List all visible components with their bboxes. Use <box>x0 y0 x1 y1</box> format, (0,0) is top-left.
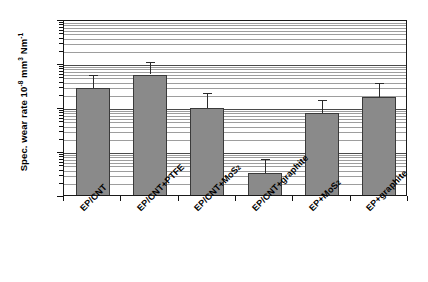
y-axis-title-exp1: -8 <box>17 81 24 87</box>
y-axis-title-mid: mm <box>18 61 29 81</box>
gridline-minor <box>64 116 406 117</box>
gridline-minor <box>64 160 406 161</box>
y-axis-title-prefix: Spec. wear rate 10 <box>18 87 29 172</box>
gridline-minor <box>64 23 406 24</box>
gridline-minor <box>64 25 406 26</box>
gridline-minor <box>64 44 406 45</box>
gridline-minor <box>64 184 406 185</box>
gridline-minor <box>64 155 406 156</box>
error-bar-cap <box>146 62 155 63</box>
chart-figure: Spec. wear rate 10-8 mm3 Nm-1 1000010001… <box>0 0 428 282</box>
gridline-minor <box>64 78 406 79</box>
gridline-minor <box>64 69 406 70</box>
gridline-minor <box>64 96 406 97</box>
gridline-minor <box>64 28 406 29</box>
y-axis-title-exp2: 3 <box>17 57 24 61</box>
error-bar-line <box>150 62 151 74</box>
gridline-minor <box>64 52 406 53</box>
x-axis-tick-mark <box>292 196 293 201</box>
gridline-minor <box>64 67 406 68</box>
x-axis-tick-mark <box>235 196 236 201</box>
error-bar-line <box>93 75 94 88</box>
bar <box>76 88 110 196</box>
error-bar-line <box>379 83 380 97</box>
gridline-major <box>64 109 406 110</box>
error-bar-cap <box>261 159 270 160</box>
gridline-minor <box>64 34 406 35</box>
gridline-minor <box>64 75 406 76</box>
gridline-minor <box>64 88 406 89</box>
x-axis-tick-mark <box>63 196 64 201</box>
error-bar-cap <box>375 83 384 84</box>
gridline-minor <box>64 119 406 120</box>
y-axis-title: Spec. wear rate 10-8 mm3 Nm-1 <box>17 7 29 197</box>
gridline-minor <box>64 31 406 32</box>
gridline-minor <box>64 113 406 114</box>
gridline-minor <box>64 72 406 73</box>
gridline-minor <box>64 111 406 112</box>
error-bar-cap <box>318 100 327 101</box>
error-bar-line <box>265 159 266 173</box>
x-axis-tick-mark <box>120 196 121 201</box>
error-bar-line <box>322 100 323 113</box>
gridline-minor <box>64 132 406 133</box>
error-bar-cap <box>203 93 212 94</box>
error-bar-line <box>207 93 208 108</box>
gridline-minor <box>64 127 406 128</box>
y-axis-title-mid2: Nm <box>18 39 29 57</box>
gridline-major <box>64 65 406 66</box>
gridline-minor <box>64 39 406 40</box>
y-axis-title-exp3: -1 <box>17 33 24 39</box>
x-axis-tick-mark <box>407 196 408 201</box>
x-axis-tick-mark <box>350 196 351 201</box>
gridline-minor <box>64 157 406 158</box>
gridline-minor <box>64 83 406 84</box>
error-bar-cap <box>89 75 98 76</box>
x-axis-tick-mark <box>178 196 179 201</box>
gridline-minor <box>64 140 406 141</box>
gridline-major <box>64 153 406 154</box>
gridline-minor <box>64 122 406 123</box>
